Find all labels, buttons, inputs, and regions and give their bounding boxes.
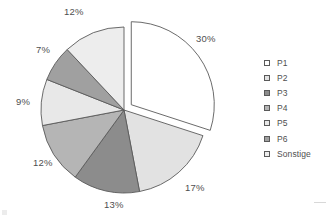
legend-item-label: P2	[277, 73, 288, 83]
legend-item-p3[interactable]: P3	[264, 85, 332, 100]
pie-chart: 30%17%13%12%9%7%12% P1P2P3P4P5P6Sonstige	[0, 0, 332, 221]
corner-mark	[314, 202, 326, 203]
chart-legend: P1P2P3P4P5P6Sonstige	[264, 55, 332, 161]
legend-item-label: P6	[277, 134, 288, 144]
legend-swatch-icon	[264, 151, 270, 157]
pie-svg	[0, 0, 260, 221]
slice-value-label: 30%	[196, 33, 216, 44]
legend-swatch-icon	[264, 75, 270, 81]
legend-swatch-icon	[264, 105, 270, 111]
legend-item-p2[interactable]: P2	[264, 70, 332, 85]
legend-swatch-icon	[264, 136, 270, 142]
slice-value-label: 9%	[16, 96, 30, 107]
legend-item-p4[interactable]: P4	[264, 101, 332, 116]
legend-item-label: P1	[277, 58, 288, 68]
legend-item-label: Sonstige	[277, 149, 311, 159]
slice-value-label: 13%	[104, 199, 124, 210]
legend-item-label: P3	[277, 88, 288, 98]
legend-swatch-icon	[264, 90, 270, 96]
slice-value-label: 17%	[185, 182, 205, 193]
legend-item-label: P5	[277, 118, 288, 128]
slice-value-label: 12%	[64, 6, 84, 17]
slice-value-label: 7%	[36, 44, 50, 55]
slice-value-label: 12%	[33, 157, 53, 168]
legend-item-p5[interactable]: P5	[264, 116, 332, 131]
legend-item-sonstige[interactable]: Sonstige	[264, 146, 332, 161]
legend-item-p6[interactable]: P6	[264, 131, 332, 146]
edge-mark	[2, 210, 7, 215]
legend-swatch-icon	[264, 60, 270, 66]
legend-item-p1[interactable]: P1	[264, 55, 332, 70]
legend-item-label: P4	[277, 103, 288, 113]
legend-swatch-icon	[264, 120, 270, 126]
